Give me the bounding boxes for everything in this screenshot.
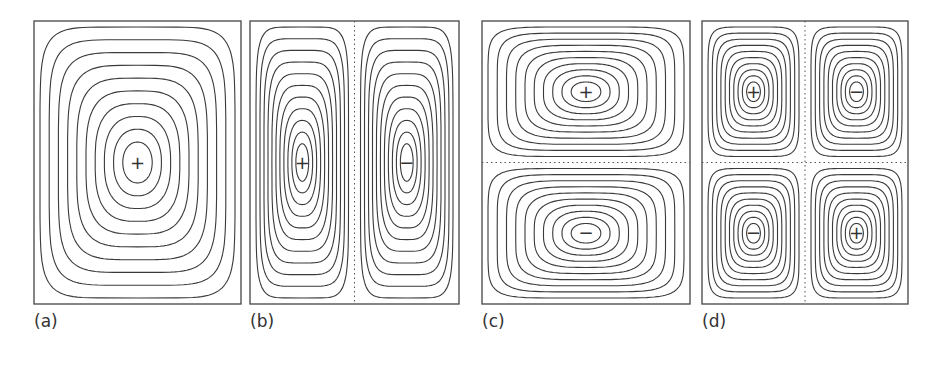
panel-label-b: (b)	[250, 311, 274, 331]
plus-sign-icon: +	[130, 152, 145, 173]
panel-frame	[702, 21, 908, 304]
plus-sign-icon: +	[578, 81, 593, 102]
minus-sign-icon: −	[399, 152, 414, 173]
panel-label-c: (c)	[482, 311, 505, 331]
plus-sign-icon: +	[849, 222, 864, 243]
panel-a: +	[34, 21, 241, 304]
plus-sign-icon: +	[295, 152, 310, 173]
minus-sign-icon: −	[849, 81, 864, 102]
panel-frame	[250, 21, 459, 304]
minus-sign-icon: −	[578, 222, 593, 243]
contour-figure: ++−+−+−−+	[0, 0, 935, 367]
panel-c: +−	[482, 21, 690, 304]
panel-label-a: (a)	[34, 311, 58, 331]
plus-sign-icon: +	[746, 81, 761, 102]
panel-b: +−	[250, 21, 459, 304]
minus-sign-icon: −	[746, 222, 761, 243]
panel-d: +−−+	[702, 21, 908, 304]
panel-label-d: (d)	[702, 311, 726, 331]
